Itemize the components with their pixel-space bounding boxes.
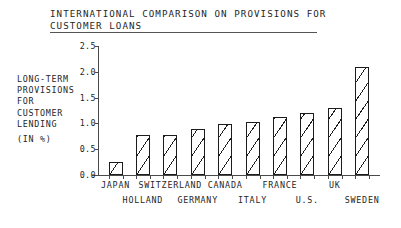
bar (273, 117, 287, 175)
x-axis-tick-label: CANADA (208, 180, 243, 190)
x-axis-tick-label: UK (329, 180, 341, 190)
x-axis-tick-label: FRANCE (263, 180, 298, 190)
bar (355, 67, 369, 175)
bar (246, 122, 260, 175)
bar (191, 129, 205, 175)
y-axis-tick-label: 0.5 (80, 145, 96, 153)
y-axis-tick-label: 1.5 (80, 94, 96, 102)
bar (109, 162, 123, 175)
y-axis-tick-label: 2.5 (80, 42, 96, 50)
bar-series (98, 46, 380, 175)
x-axis-tick-labels: JAPANHOLLANDSWITZERLANDGERMANYCANADAITAL… (0, 178, 401, 222)
x-axis-tick-label: JAPAN (101, 180, 130, 190)
x-axis-tick-label: SWEDEN (345, 195, 380, 205)
x-axis-tick-label: SWITZERLAND (138, 180, 202, 190)
x-axis-tick-label: HOLLAND (123, 195, 164, 205)
bar (300, 113, 314, 175)
bar (136, 135, 150, 175)
y-axis-tick-label: 2.0 (80, 68, 96, 76)
bar (328, 108, 342, 175)
x-axis-tick-label: ITALY (238, 195, 267, 205)
chart-figure: INTERNATIONAL COMPARISON ON PROVISIONS F… (0, 0, 401, 228)
y-axis-tick-label: 1.0 (80, 119, 96, 127)
x-axis-tick-label: GERMANY (177, 195, 218, 205)
bar (163, 135, 177, 175)
x-axis-tick-label: U.S. (296, 195, 319, 205)
bar (218, 124, 232, 175)
